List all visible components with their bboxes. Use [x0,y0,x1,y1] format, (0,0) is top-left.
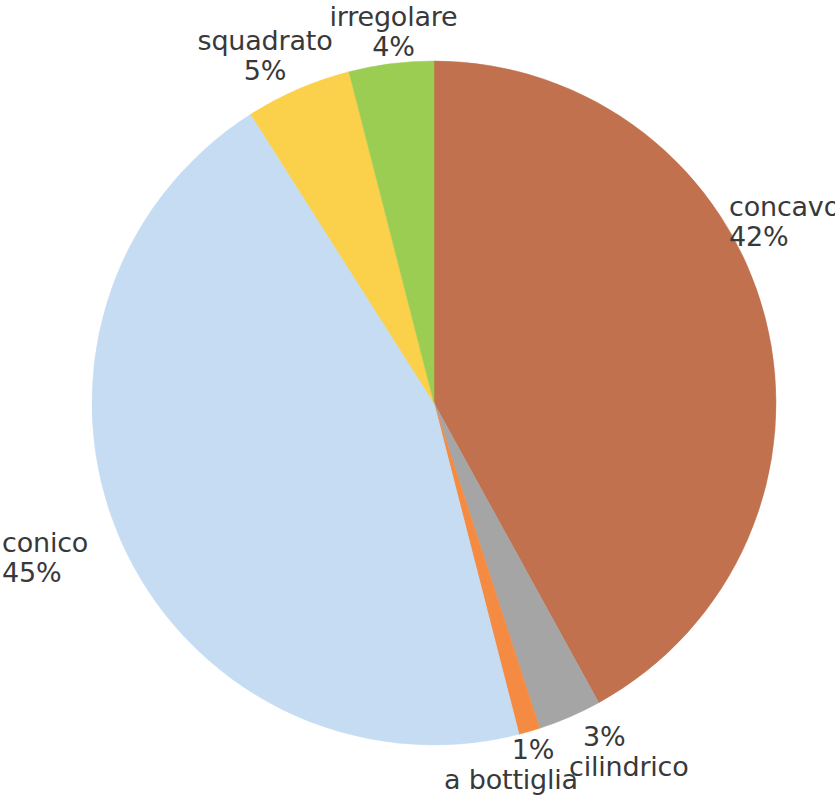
slice-label-conico: conico 45% [2,528,114,588]
pie-chart-page: irregolare 4% squadrato 5% concavo 42% c… [0,0,835,798]
slice-label-squadrato-percent: 5% [186,56,344,86]
slice-label-cilindrico: 3% cilindrico [569,722,717,782]
slice-label-squadrato: squadrato 5% [186,26,344,86]
slice-label-cilindrico-percent: 3% [569,722,717,752]
slice-label-squadrato-name: squadrato [186,26,344,56]
slice-label-a-bottiglia: 1% a bottiglia [436,735,586,795]
slice-label-cilindrico-name: cilindrico [569,752,717,782]
pie-slice-group [92,61,776,745]
slice-label-concavo-name: concavo [729,192,835,222]
slice-label-concavo: concavo 42% [729,192,835,252]
slice-label-a-bottiglia-name: a bottiglia [436,765,586,795]
pie-chart-graphic [0,0,835,798]
slice-label-conico-name: conico [2,528,114,558]
slice-label-a-bottiglia-percent: 1% [436,735,586,765]
slice-label-conico-percent: 45% [2,558,114,588]
slice-label-concavo-percent: 42% [729,222,835,252]
